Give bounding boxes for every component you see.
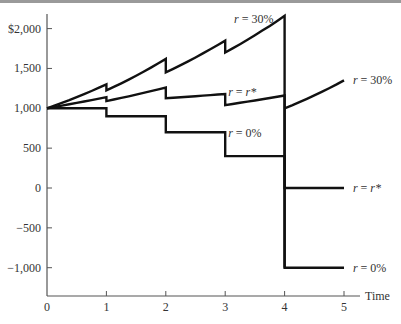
x-tick-label: 1 bbox=[103, 300, 109, 314]
y-tick-label: 1,000 bbox=[14, 101, 41, 115]
series-r-30--line-after bbox=[285, 80, 344, 108]
y-tick-label: 1,500 bbox=[14, 61, 41, 75]
series-label: r = r* bbox=[228, 85, 256, 99]
series-r-30--line bbox=[47, 16, 285, 268]
y-tick-label: $2,000 bbox=[8, 22, 41, 36]
y-tick-label: −1,000 bbox=[7, 261, 41, 275]
x-axis-label: Time bbox=[365, 289, 390, 303]
axes: $2,0001,5001,0005000−500−1,000012345Time bbox=[7, 14, 390, 314]
x-tick-label: 3 bbox=[222, 300, 228, 314]
series-label: r = 0% bbox=[353, 261, 386, 275]
y-tick-label: −500 bbox=[16, 221, 41, 235]
series-label: r = 30% bbox=[234, 12, 273, 26]
y-tick-label: 500 bbox=[23, 141, 41, 155]
series-label: r = 0% bbox=[228, 126, 261, 140]
chart-canvas: $2,0001,5001,0005000−500−1,000012345Time… bbox=[0, 0, 401, 324]
series-label: r = r* bbox=[353, 181, 381, 195]
x-tick-label: 2 bbox=[163, 300, 169, 314]
series-group bbox=[47, 16, 344, 268]
x-tick-label: 4 bbox=[282, 300, 288, 314]
y-tick-label: 0 bbox=[35, 181, 41, 195]
series-label: r = 30% bbox=[353, 73, 392, 87]
x-tick-label: 5 bbox=[341, 300, 347, 314]
x-tick-label: 0 bbox=[44, 300, 50, 314]
labels-group: r = 30%r = 30%r = r*r = r*r = 0%r = 0% bbox=[228, 12, 392, 275]
